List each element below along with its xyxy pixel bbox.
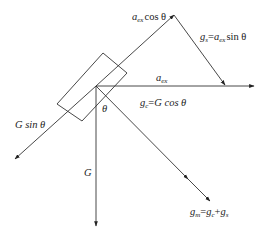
label-g-sin: G sin θ — [15, 119, 45, 130]
label-gm: gm=gc+gs — [190, 206, 229, 219]
gs-vector — [174, 15, 225, 85]
label-gc: gc=G cos θ — [140, 97, 186, 110]
acceleration-vector-diagram: aexcos θ gs=aexsin θ aex gc=G cos θ G si… — [0, 0, 259, 235]
label-aex-cos: aexcos θ — [132, 11, 166, 24]
aex-cos-vector — [96, 15, 174, 86]
label-aex: aex — [156, 72, 168, 85]
label-gs: gs=aexsin θ — [200, 31, 246, 44]
label-G: G — [84, 167, 92, 178]
label-theta: θ — [102, 103, 107, 114]
inclined-block — [57, 53, 127, 121]
gm-vector — [188, 179, 210, 201]
